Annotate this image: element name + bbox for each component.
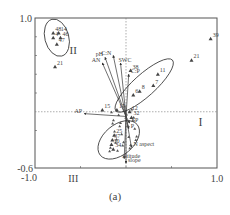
sample-point-triangle (109, 146, 112, 149)
sample-point-label: 8 (142, 84, 145, 90)
sample-point-label: 39 (213, 32, 219, 38)
sample-point-triangle (135, 135, 138, 138)
x-tick-label-left: -1.0 (21, 172, 37, 183)
sample-point-triangle (134, 138, 137, 141)
sample-point-label: 6 (135, 88, 138, 94)
sample-point-label: 21 (194, 53, 200, 59)
sample-point-triangle (111, 122, 114, 125)
env-vector-label: C:N (101, 50, 112, 56)
y-tick-label-top: 1.0 (20, 13, 33, 24)
sample-point-triangle (121, 144, 124, 147)
env-vector-label: N aspect (133, 141, 154, 147)
sample-point-triangle (129, 144, 132, 147)
env-vector-label: SWC (119, 57, 132, 63)
sample-point-triangle (117, 114, 120, 117)
group-ellipse-upper-left (40, 16, 73, 59)
sample-point-triangle (118, 125, 121, 128)
sample-point-triangle (112, 119, 115, 122)
sample-point-label: 32 (133, 110, 139, 116)
quadrant-label-II: II (70, 44, 78, 56)
sample-point-triangle (128, 147, 131, 150)
figure-caption: (a) (109, 190, 122, 203)
sample-point-label: 7 (155, 79, 158, 85)
sample-point-label: 21 (57, 60, 63, 66)
env-vector-label: slope (128, 157, 141, 163)
quadrant-label-I: I (199, 115, 203, 129)
sample-point-label: 38 (133, 64, 139, 70)
quadrant-label-III: III (68, 173, 78, 184)
sample-point-label: 17 (119, 103, 125, 109)
ordination-biplot: 1.0-0.6-1.01.0IIIIIIpHANC:NSWCC:PAPSPPN … (0, 0, 230, 215)
x-tick-label-right: 1.0 (211, 173, 224, 184)
sample-point-label: 46 (62, 31, 68, 37)
sample-point-label: 15 (104, 103, 110, 109)
sample-point-label: 11 (160, 67, 166, 73)
sample-point-triangle (108, 150, 111, 153)
env-vector-label: AP (74, 108, 82, 114)
env-vector-label: AN (92, 57, 101, 63)
sample-point-triangle (126, 124, 129, 127)
env-vector-label: P (131, 123, 135, 129)
sample-point-label: 4 (55, 31, 58, 37)
sample-point-label: 47 (59, 37, 65, 43)
sample-point-triangle (116, 149, 119, 152)
